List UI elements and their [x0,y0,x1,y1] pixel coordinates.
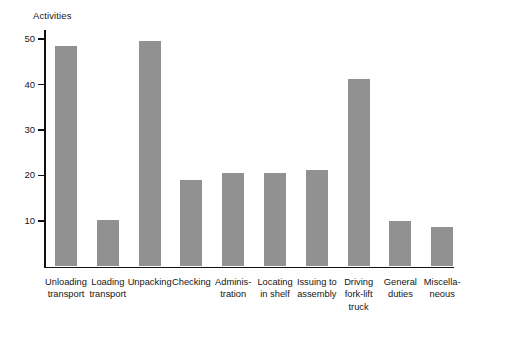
bar [97,220,119,266]
bar-chart-figure: Activities 1020304050 Unloadingtransport… [0,0,508,339]
x-axis-label-line: transport [79,288,137,300]
bar [180,180,202,266]
x-axis-label-line: truck [330,301,388,313]
x-axis-labels: UnloadingtransportLoadingtransportUnpack… [44,276,464,336]
bar [306,170,328,267]
y-tick-mark [38,175,46,176]
y-tick-label: 40 [14,78,35,92]
bar [222,173,244,267]
y-tick-mark [38,220,46,221]
y-tick-mark [38,129,46,130]
bar [55,46,77,266]
y-tick-mark [38,38,46,39]
y-tick-label: 50 [14,32,35,46]
plot-area: 1020304050 [44,30,454,268]
y-tick-label: 10 [14,214,35,228]
y-axis-title: Activities [33,10,71,21]
bar [348,79,370,267]
x-axis-line [44,267,454,269]
bar [431,227,453,267]
x-axis-label-line: neous [413,288,471,300]
y-tick-mark [38,84,46,85]
y-tick-label: 30 [14,123,35,137]
bar [264,173,286,267]
y-tick-label: 20 [14,168,35,182]
y-axis-line [44,30,46,268]
bar [389,221,411,266]
x-axis-label: Miscella-neous [413,276,471,301]
bar [139,41,161,266]
x-axis-label-line: Miscella- [413,276,471,288]
